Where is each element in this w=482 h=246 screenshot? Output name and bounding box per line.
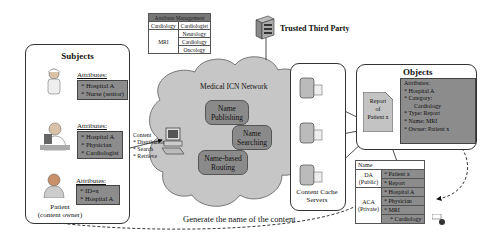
attr-item: * Category:: [404, 95, 472, 103]
aca-value: * Hospital A: [382, 188, 425, 197]
attr-item: * Type: Report: [404, 110, 472, 118]
attr-item: * Physician: [81, 141, 119, 149]
physician-avatar-icon: [38, 120, 72, 152]
nurse-avatar-icon: [44, 66, 64, 96]
ttp-label: Trusted Third Party: [280, 24, 349, 33]
object-attributes-label: Attributes:: [404, 80, 472, 88]
da-value: * Report: [382, 179, 425, 188]
attr-item: * Nurse (senior): [81, 90, 124, 98]
am-key: MRI: [149, 30, 179, 54]
subjects-title: Subjects: [26, 51, 129, 61]
name-based-routing-box: Name-based Routing: [198, 150, 248, 175]
ttp-server-icon: [254, 14, 276, 40]
computer-icon: [160, 126, 194, 156]
report-label: Report of Patient x: [363, 97, 393, 121]
da-label-line: DA: [358, 172, 379, 179]
aca-label-line: ACA: [358, 199, 379, 206]
physician-attributes-label: Attributes:: [77, 122, 107, 130]
patient-attributes-label: Attributes:: [76, 177, 106, 185]
nurse-attributes-label: Attributes:: [77, 71, 107, 79]
aca-label: ACA (Private): [356, 188, 382, 224]
attr-item: * Hospital A: [81, 82, 124, 90]
da-label: DA (Public): [356, 170, 382, 188]
cache-label-line1: Content Cache: [288, 188, 346, 196]
name-publishing-box: Name Publishing: [205, 100, 249, 125]
nurse-attributes: * Hospital A * Nurse (senior): [77, 80, 128, 100]
patient-attributes: * ID=x * Hospital A: [76, 185, 120, 205]
cache-servers-label: Content Cache Servers: [288, 188, 346, 204]
report-line: of: [363, 105, 393, 113]
aca-value: * MRI: [382, 206, 425, 215]
object-attributes: Attributes: * Hospital A * Category: Car…: [400, 78, 476, 144]
am-value: Cardiologist: [178, 22, 210, 30]
cache-label-line2: Servers: [288, 196, 346, 204]
aca-label-line: (Private): [358, 206, 379, 213]
generate-name-label: Generate the name of the content: [183, 214, 296, 224]
da-label-line: (Public): [358, 179, 379, 186]
am-value: Oncology: [178, 46, 210, 54]
aca-value: * Cardiology: [382, 215, 425, 224]
cache-server-icon: [298, 75, 326, 105]
patient-caption-line1: Patient: [30, 203, 90, 211]
name-header: Name: [356, 161, 425, 170]
attribute-management-header: Attribute Management: [149, 14, 211, 22]
attr-item: * Hospital A: [80, 195, 116, 203]
aca-value: * Physician: [382, 197, 425, 206]
attr-item: * ID=x: [80, 187, 116, 195]
report-document: Report of Patient x: [363, 92, 393, 132]
am-key: Cardiology: [149, 22, 179, 30]
attr-item: * Hospital A: [404, 88, 472, 96]
attribute-management-table: Attribute Management Cardiology Cardiolo…: [148, 13, 211, 54]
objects-title: Objects: [403, 67, 433, 77]
report-line: Report: [363, 97, 393, 105]
cache-server-icon: [298, 120, 326, 150]
da-value: * Patient x: [382, 170, 425, 179]
patient-avatar-icon: [42, 172, 66, 198]
attr-item: * Name: MRI: [404, 118, 472, 126]
key-icon: [432, 212, 446, 230]
report-line: Patient x: [363, 113, 393, 121]
patient-caption-line2: (content owner): [30, 211, 90, 219]
content-name-table: Name DA (Public) * Patient x * Report AC…: [355, 160, 425, 224]
patient-caption: Patient (content owner): [30, 203, 90, 219]
attr-item: Cardiology: [404, 103, 472, 111]
name-searching-box: Name Searching: [232, 125, 272, 150]
network-title: Medical ICN Network: [200, 82, 267, 91]
am-value: Cardiology: [178, 38, 210, 46]
attr-item: * Cardiologist: [81, 149, 119, 157]
attr-item: * Owner: Patient x: [404, 126, 472, 134]
attr-item: * Hospital A: [81, 133, 119, 141]
physician-attributes: * Hospital A * Physician * Cardiologist: [77, 131, 123, 159]
am-value: Neurology: [178, 30, 210, 38]
